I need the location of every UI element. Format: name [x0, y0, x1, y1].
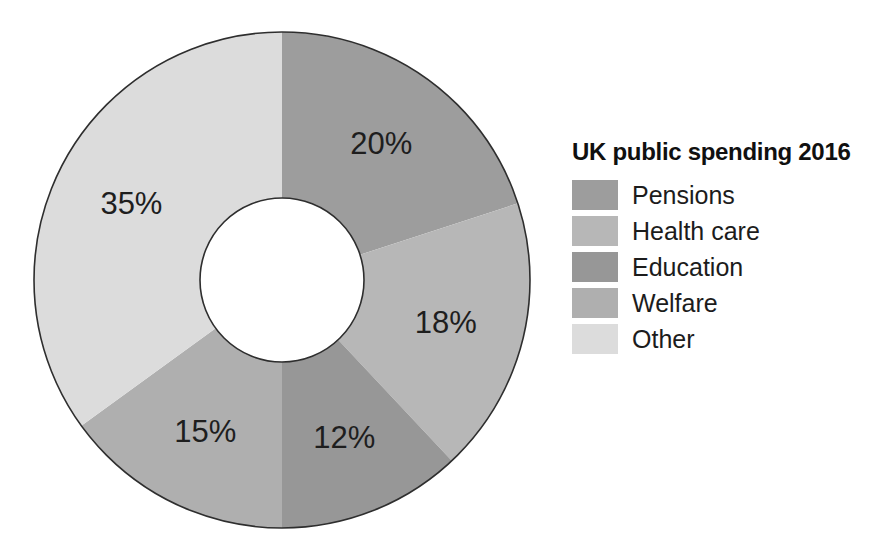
- legend-swatch: [572, 324, 618, 354]
- legend-label: Pensions: [632, 183, 735, 208]
- legend-item-health-care: Health care: [572, 216, 872, 246]
- legend-item-education: Education: [572, 252, 872, 282]
- legend-item-pensions: Pensions: [572, 180, 872, 210]
- legend-swatch: [572, 288, 618, 318]
- legend-swatch: [572, 216, 618, 246]
- legend-label: Welfare: [632, 291, 718, 316]
- legend-item-welfare: Welfare: [572, 288, 872, 318]
- donut-chart-area: 20%18%12%15%35%: [0, 0, 560, 540]
- inner-hole-outline: [200, 198, 364, 362]
- legend-swatch: [572, 180, 618, 210]
- slice-label-education: 12%: [313, 420, 375, 455]
- slice-label-welfare: 15%: [174, 414, 236, 449]
- donut-chart: 20%18%12%15%35%: [0, 0, 560, 540]
- legend-label: Other: [632, 327, 695, 352]
- slice-label-other: 35%: [100, 186, 162, 221]
- legend-label: Health care: [632, 219, 760, 244]
- slice-label-health-care: 18%: [415, 305, 477, 340]
- legend-item-other: Other: [572, 324, 872, 354]
- legend: UK public spending 2016 Pensions Health …: [572, 138, 872, 360]
- legend-items: Pensions Health care Education Welfare O…: [572, 180, 872, 354]
- legend-title: UK public spending 2016: [572, 138, 872, 166]
- legend-swatch: [572, 252, 618, 282]
- slice-label-pensions: 20%: [350, 126, 412, 161]
- legend-label: Education: [632, 255, 743, 280]
